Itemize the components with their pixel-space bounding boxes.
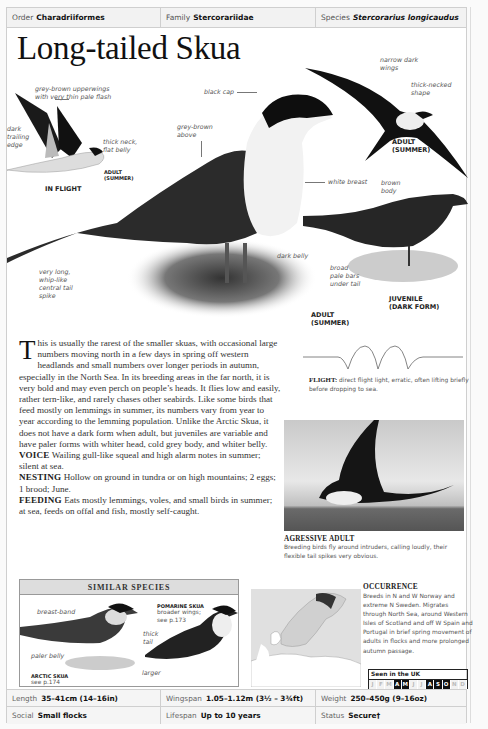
month-cell: F	[377, 680, 385, 689]
aggressive-adult-photo	[284, 420, 464, 531]
photo-title: AGRESSIVE ADULT	[284, 535, 464, 543]
caption-juvenile: JUVENILE (DARK FORM)	[389, 295, 439, 311]
label-paler-belly: paler belly	[31, 652, 64, 660]
month-cell: A	[394, 680, 402, 689]
stats-row-2: SocialSmall flocks LifespanUp to 10 year…	[7, 707, 466, 724]
month-cell: D	[459, 680, 467, 689]
order-value: Charadriiformes	[36, 13, 104, 22]
description-feeding: FEEDING Eats mostly lemmings, voles, and…	[19, 495, 281, 517]
order-cell: Order Charadriiformes	[7, 8, 161, 27]
month-cell: J	[418, 680, 426, 689]
species-label: Species	[321, 13, 350, 22]
family-label: Family	[166, 13, 190, 22]
month-cell: N	[451, 680, 459, 689]
seen-in-uk-label: Seen in the UK	[369, 670, 467, 680]
photo-text: Breeding birds fly around intruders, cal…	[284, 543, 464, 561]
distribution-map	[251, 589, 361, 687]
description-voice: VOICE Wailing gull-like squeal and high …	[19, 450, 281, 472]
pomarine-skua-note[interactable]: broader wings; see p.173	[157, 609, 201, 624]
month-cell: S	[434, 680, 442, 689]
month-cell: A	[426, 680, 434, 689]
page-title: Long-tailed Skua	[17, 30, 240, 67]
month-cell: J	[369, 680, 377, 689]
occurrence-section: OCCURRENCE Breeds in N and W Norway and …	[363, 582, 473, 656]
label-tail-spike: very long, whip-like central tail spike	[39, 268, 73, 299]
label-grey-brown-above: grey-brown above	[177, 123, 213, 139]
stats-table: Length35–41cm (14–16in) Wingspan1.05–1.1…	[7, 689, 466, 724]
label-thick-necked-shape: thick-necked shape	[411, 81, 451, 97]
seen-in-uk-calendar: Seen in the UK JFMAMJJASOND	[368, 669, 468, 689]
arctic-skua-page-ref[interactable]: see p.174	[31, 679, 60, 685]
months-row: JFMAMJJASOND	[369, 680, 467, 689]
drop-cap: T	[19, 339, 36, 361]
label-breast-band: breast-band	[37, 608, 75, 616]
label-broad-pale-bars: broad pale bars under tail	[330, 264, 360, 288]
stat-status: StatusSecure†	[316, 707, 466, 724]
species-cell: Species Stercorarius longicaudus	[316, 8, 466, 27]
flight-label: FLIGHT:	[309, 376, 337, 383]
flight-description: FLIGHT: direct flight light, erratic, of…	[309, 375, 474, 394]
order-label: Order	[12, 13, 33, 22]
month-cell: J	[410, 680, 418, 689]
similar-species-box: SIMILAR SPECIES	[19, 579, 239, 687]
description-nesting: NESTING Hollow on ground in tundra or on…	[19, 472, 281, 494]
stats-row-1: Length35–41cm (14–16in) Wingspan1.05–1.1…	[7, 690, 466, 707]
occurrence-title: OCCURRENCE	[363, 582, 473, 591]
juvenile-illustration	[303, 186, 468, 286]
photo-bird	[284, 420, 464, 531]
photo-caption: AGRESSIVE ADULT Breeding birds fly aroun…	[284, 535, 464, 561]
label-larger: larger	[142, 669, 161, 677]
label-narrow-dark-wings: narrow dark wings	[380, 56, 418, 72]
description-intro: This is usually the rarest of the smalle…	[19, 338, 281, 450]
month-cell: M	[385, 680, 393, 689]
similar-species-heading: SIMILAR SPECIES	[20, 580, 238, 595]
month-cell: M	[402, 680, 410, 689]
family-cell: Family Stercorariidae	[161, 8, 316, 27]
label-brown-body: brown body	[381, 179, 401, 195]
species-description: This is usually the rarest of the smalle…	[19, 338, 281, 517]
stat-weight: Weight250–450g (9–16oz)	[316, 690, 466, 706]
europe-map	[251, 589, 361, 687]
taxonomy-bar: Order Charadriiformes Family Stercorarii…	[7, 8, 466, 28]
label-thick-tail: thick tail	[143, 630, 158, 646]
flight-pattern-wave	[303, 344, 463, 372]
occurrence-text: Breeds in N and W Norway and extreme N S…	[363, 592, 473, 656]
label-black-cap: black cap	[204, 88, 234, 96]
caption-flying-adult: ADULT (SUMMER)	[392, 138, 430, 154]
month-cell: O	[443, 680, 451, 689]
stat-wingspan: Wingspan1.05–1.12m (3½ – 3¾ft)	[161, 690, 316, 706]
species-value: Stercorarius longicaudus	[353, 13, 459, 22]
stat-lifespan: LifespanUp to 10 years	[161, 707, 316, 724]
stat-social: SocialSmall flocks	[7, 707, 161, 724]
caption-main-adult: ADULT (SUMMER)	[311, 311, 349, 327]
species-page: Order Charadriiformes Family Stercorarii…	[6, 7, 467, 723]
family-value: Stercorariidae	[193, 13, 254, 22]
stat-length: Length35–41cm (14–16in)	[7, 690, 161, 706]
